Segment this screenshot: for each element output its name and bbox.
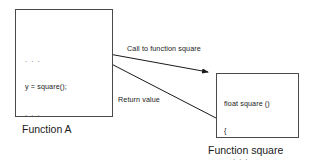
function-a-caption: Function A [22,123,72,135]
function-a-code: . . . y = square(); . . . [25,37,67,136]
code-line: { [224,126,270,135]
function-a-box: . . . y = square(); . . . [15,9,113,117]
function-square-box: float square () { . . . return val; } [216,73,299,138]
return-arrow-label: Return value [118,95,160,104]
code-line: . . . [25,109,67,118]
call-arrow-label: Call to function square [127,44,201,53]
diagram-canvas: . . . y = square(); . . . float square (… [0,0,311,166]
code-line: . . . [25,55,67,64]
function-square-caption: Function square [208,144,283,156]
code-line: y = square(); [25,82,67,91]
code-line: float square () [224,99,270,108]
